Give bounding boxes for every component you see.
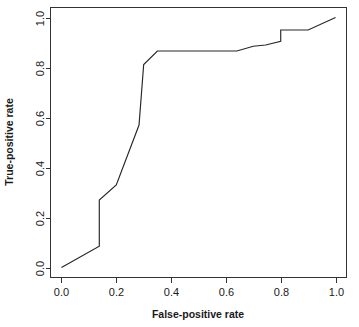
y-tick-label: 0.6 [34, 111, 46, 126]
y-tick-label: 0.4 [34, 161, 46, 176]
roc-plot-figure: 0.00.20.40.60.81.0 0.00.20.40.60.81.0 Fa… [0, 0, 359, 327]
y-tick-label: 0.2 [34, 211, 46, 226]
roc-curve-line [61, 18, 335, 268]
roc-chart-canvas: 0.00.20.40.60.81.0 0.00.20.40.60.81.0 Fa… [0, 0, 359, 327]
x-tick-label: 1.0 [329, 286, 344, 298]
y-axis-title: True-positive rate [3, 98, 15, 186]
plot-frame-rect [51, 8, 347, 278]
x-tick-label: 0.8 [274, 286, 289, 298]
x-tick-label: 0.2 [109, 286, 124, 298]
x-axis-title: False-positive rate [152, 308, 244, 320]
x-axis-ticks [62, 278, 337, 283]
y-tick-label: 1.0 [34, 11, 46, 26]
y-axis-tick-labels: 0.00.20.40.60.81.0 [34, 11, 46, 276]
x-axis-tick-labels: 0.00.20.40.60.81.0 [54, 286, 344, 298]
x-tick-label: 0.0 [54, 286, 69, 298]
y-tick-label: 0.0 [34, 261, 46, 276]
x-tick-label: 0.4 [164, 286, 179, 298]
x-tick-label: 0.6 [219, 286, 234, 298]
plot-frame [51, 8, 347, 278]
y-tick-label: 0.8 [34, 61, 46, 76]
y-axis-ticks [46, 19, 51, 269]
